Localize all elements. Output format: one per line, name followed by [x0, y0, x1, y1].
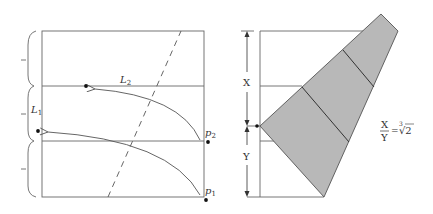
dot-L2: [84, 84, 88, 88]
shaded-wedge: [260, 14, 398, 197]
dot-p1: [204, 198, 208, 202]
left-diagram: L2 L1 p2 p1: [21, 31, 216, 202]
label-Y: Y: [242, 151, 250, 162]
ratio-denominator: Y: [380, 132, 388, 143]
left-box: [42, 31, 204, 197]
dot-L1: [36, 129, 40, 133]
label-p2: p2: [205, 127, 216, 140]
brace-bottom: [28, 141, 36, 197]
root-value: √2: [399, 125, 412, 136]
label-L2: L2: [119, 74, 131, 87]
label-L1: L1: [30, 104, 42, 117]
ratio-equals: =: [391, 126, 399, 136]
curve-to-L2: [95, 89, 200, 140]
right-diagram: X Y X Y = 3 √2: [241, 14, 414, 197]
brace-top: [28, 31, 36, 86]
dashed-line: [108, 31, 181, 197]
ratio-numerator: X: [381, 119, 389, 130]
label-p1: p1: [205, 185, 216, 198]
ratio-formula: X Y = 3 √2: [380, 119, 414, 143]
label-X: X: [243, 77, 251, 88]
dot-p2: [206, 140, 210, 144]
dot-apex: [255, 124, 259, 128]
figure: L2 L1 p2 p1 X Y X Y = 3 √2: [0, 0, 433, 214]
